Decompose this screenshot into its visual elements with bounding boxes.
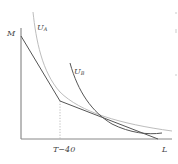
curve-a-label: UA <box>37 24 47 32</box>
kink-tick-label: T−40 <box>53 146 75 154</box>
diagram-canvas <box>0 0 178 164</box>
y-axis-label: M <box>7 30 15 38</box>
budget-line <box>21 36 158 139</box>
x-axis-label: L <box>162 146 167 154</box>
curve-b-label: UB <box>74 68 84 76</box>
indifference-curve-a <box>33 12 172 131</box>
